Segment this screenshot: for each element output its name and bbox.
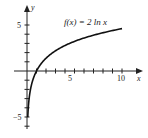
x-tick-label-10: 10 xyxy=(117,74,125,83)
axis-ticks xyxy=(25,25,123,126)
function-graph: x y 5 10 5 −5 f(x) = 2 ln x xyxy=(0,0,148,138)
x-axis-label: x xyxy=(136,74,141,83)
function-label: f(x) = 2 ln x xyxy=(64,17,107,27)
y-tick-label-neg5: −5 xyxy=(13,113,22,122)
y-tick-label-5: 5 xyxy=(17,21,21,30)
y-axis-arrow-icon xyxy=(24,5,30,12)
y-axis-label: y xyxy=(30,3,35,12)
x-tick-label-5: 5 xyxy=(68,74,72,83)
